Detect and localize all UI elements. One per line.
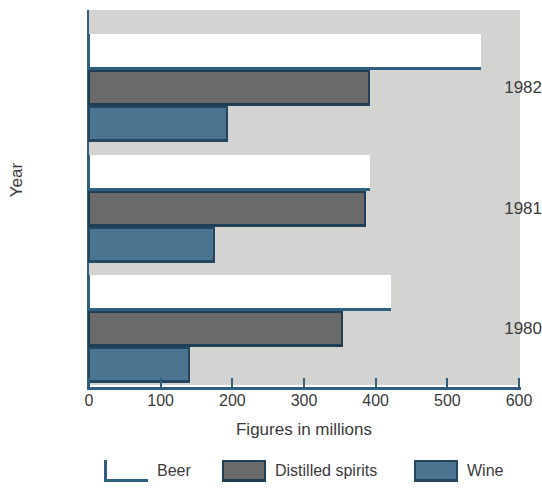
chart-legend: Beer Distilled spirits Wine xyxy=(0,460,542,494)
legend-label-beer: Beer xyxy=(157,462,191,480)
x-tick-label-400: 400 xyxy=(362,392,389,410)
x-tick-300 xyxy=(303,378,305,387)
legend-label-wine: Wine xyxy=(467,462,503,480)
x-tick-label-500: 500 xyxy=(434,392,461,410)
y-tick-label-1981: 1981 xyxy=(462,199,542,219)
x-tick-500 xyxy=(446,378,448,387)
legend-label-distilled-spirits: Distilled spirits xyxy=(275,462,377,480)
x-tick-label-200: 200 xyxy=(219,392,246,410)
x-tick-label-100: 100 xyxy=(147,392,174,410)
wine-swatch-icon xyxy=(414,460,458,482)
x-tick-400 xyxy=(375,378,377,387)
bar-wine-1981 xyxy=(88,227,215,263)
x-tick-label-600: 600 xyxy=(506,392,533,410)
legend-item-beer: Beer xyxy=(104,460,191,482)
y-axis-title-wrap: Year xyxy=(0,170,40,190)
legend-item-distilled-spirits: Distilled spirits xyxy=(222,460,377,482)
x-tick-200 xyxy=(231,378,233,387)
bar-chart: 0100200300400500600 198219811980 Year Fi… xyxy=(0,0,542,497)
x-axis-title: Figures in millions xyxy=(88,420,520,440)
x-tick-label-300: 300 xyxy=(291,392,318,410)
bar-distilled-spirits-1981 xyxy=(88,191,366,227)
x-tick-600 xyxy=(518,378,520,387)
bar-distilled-spirits-1982 xyxy=(88,70,370,106)
bar-wine-1982 xyxy=(88,106,228,142)
distilled-spirits-swatch-icon xyxy=(222,460,266,482)
y-tick-label-1980: 1980 xyxy=(462,319,542,339)
x-tick-100 xyxy=(160,378,162,387)
x-tick-label-0: 0 xyxy=(85,392,94,410)
bar-beer-1980 xyxy=(88,275,391,311)
bar-beer-1982 xyxy=(88,34,481,70)
y-axis-title: Year xyxy=(7,163,27,197)
y-tick-label-1982: 1982 xyxy=(462,78,542,98)
x-tick-0 xyxy=(88,378,90,387)
x-axis-line xyxy=(87,387,521,390)
legend-item-wine: Wine xyxy=(414,460,503,482)
bar-wine-1980 xyxy=(88,347,190,383)
bar-distilled-spirits-1980 xyxy=(88,311,343,347)
bar-beer-1981 xyxy=(88,155,370,191)
beer-swatch-icon xyxy=(104,460,148,482)
